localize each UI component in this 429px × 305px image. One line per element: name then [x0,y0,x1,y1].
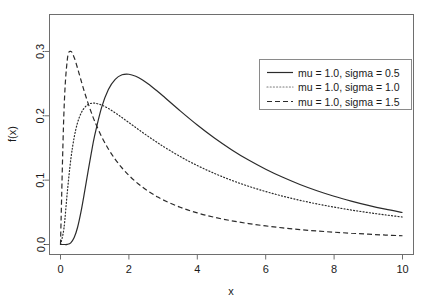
legend-label-2: mu = 1.0, sigma = 1.5 [298,96,400,108]
x-tick-label: 8 [331,263,337,275]
x-tick-label: 4 [194,263,200,275]
legend-label-0: mu = 1.0, sigma = 0.5 [298,67,400,79]
x-axis-title: x [228,285,234,297]
x-tick-label: 2 [126,263,132,275]
chart-page: 0246810 0.00.10.20.3 x f(x) mu = 1.0, si… [0,0,429,305]
x-tick-label: 6 [263,263,269,275]
x-tick-label: 10 [396,263,408,275]
legend-label-1: mu = 1.0, sigma = 1.0 [298,81,400,93]
lognormal-density-chart: 0246810 0.00.10.20.3 x f(x) mu = 1.0, si… [0,0,429,305]
x-tick-label: 0 [57,263,63,275]
y-tick-label: 0.2 [35,108,47,123]
chart-legend: mu = 1.0, sigma = 0.5 mu = 1.0, sigma = … [260,60,412,110]
chart-background [0,0,429,305]
y-tick-label: 0.3 [35,44,47,59]
y-tick-label: 0.1 [35,173,47,188]
y-axis-title: f(x) [6,126,18,142]
y-tick-label: 0.0 [35,237,47,252]
